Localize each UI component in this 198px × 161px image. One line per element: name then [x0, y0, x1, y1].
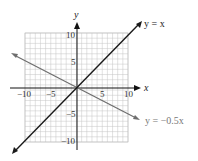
- x-axis-arrow-icon: [134, 85, 141, 91]
- label-y-equals-x: y = x: [144, 18, 165, 29]
- x-tick-10: 10: [124, 89, 134, 99]
- x-axis-label: x: [143, 82, 149, 93]
- arrowhead-icon: [133, 115, 140, 120]
- arrowhead-icon: [11, 53, 18, 58]
- x-tick-5: 5: [100, 89, 105, 99]
- y-axis-label: y: [73, 9, 79, 20]
- y-tick-neg5: −5: [66, 109, 76, 119]
- y-tick-10: 10: [66, 30, 76, 40]
- x-tick-neg10: −10: [17, 89, 32, 99]
- y-tick-5: 5: [71, 57, 76, 67]
- coordinate-plane: x y −10 −5 5 10 10 5 −5 −10 y = x y = −0…: [0, 0, 198, 161]
- y-tick-neg10: −10: [61, 136, 76, 146]
- x-tick-neg5: −5: [46, 89, 56, 99]
- y-axis-arrow-icon: [74, 22, 80, 29]
- label-y-neg-half-x: y = −0.5x: [145, 115, 184, 126]
